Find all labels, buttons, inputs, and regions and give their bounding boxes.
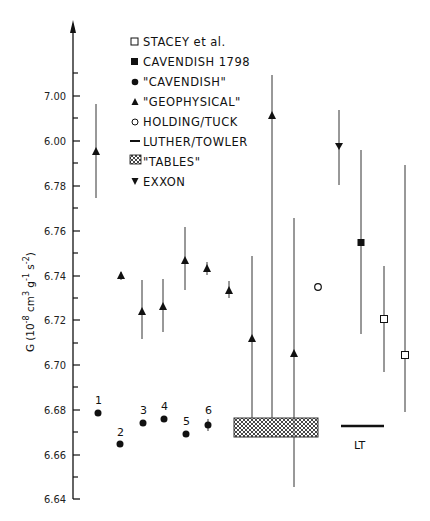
y-axis: 7.00 6.00 6.78 6.76 6.74 6.72 6.70 6.68 … [44, 20, 80, 506]
open-circle-icon [132, 119, 138, 125]
holding-tuck-point [315, 284, 322, 291]
svg-text:G(10-8 cm3 g-1 s-2): G(10-8 cm3 g-1 s-2) [22, 252, 36, 352]
filled-square-icon [131, 58, 138, 65]
legend: STACEY et al. CAVENDISH 1798 "CAVENDISH"… [130, 35, 250, 189]
lt-label: LT [354, 439, 366, 452]
point-label: 5 [183, 415, 190, 428]
legend-label: "CAVENDISH" [143, 75, 226, 89]
point-label: 6 [205, 404, 212, 417]
tables-range-box [234, 418, 318, 437]
y-tick-label: 6.66 [44, 449, 66, 462]
cavendish-points [95, 410, 212, 448]
open-square-icon [131, 38, 138, 45]
legend-label: "GEOPHYSICAL" [143, 95, 241, 109]
stacey-point [381, 316, 388, 323]
y-tick-label: 7.00 [44, 90, 66, 103]
legend-label: STACEY et al. [143, 35, 226, 49]
y-tick-label: 6.64 [44, 493, 66, 506]
y-tick-label: 6.00 [44, 135, 66, 148]
legend-label: HOLDING/TUCK [143, 115, 238, 129]
point-label: 2 [117, 426, 124, 439]
legend-label: "TABLES" [143, 155, 200, 169]
y-tick-label: 6.70 [44, 359, 66, 372]
point-label: 4 [161, 400, 168, 413]
legend-label: CAVENDISH 1798 [143, 55, 250, 69]
chart-canvas: 7.00 6.00 6.78 6.76 6.74 6.72 6.70 6.68 … [0, 0, 430, 521]
triangle-up-icon [132, 98, 139, 105]
y-tick-label: 6.78 [44, 180, 66, 193]
legend-label: LUTHER/TOWLER [143, 135, 248, 149]
exxon-point [335, 143, 343, 150]
y-tick-label: 6.68 [44, 404, 66, 417]
point-label: 3 [140, 404, 147, 417]
cavendish-1798-point [358, 239, 365, 246]
stacey-point [402, 352, 409, 359]
filled-circle-icon [132, 79, 139, 86]
hatched-box-icon [130, 155, 141, 164]
y-tick-label: 6.74 [44, 270, 66, 283]
y-tick-label: 6.76 [44, 225, 66, 238]
y-axis-title: G(10-8 cm3 g-1 s-2) [22, 252, 36, 352]
y-tick-label: 6.72 [44, 314, 66, 327]
legend-label: EXXON [143, 175, 185, 189]
point-label: 1 [95, 394, 102, 407]
axis-arrow-icon [70, 20, 76, 33]
triangle-down-icon [132, 178, 139, 185]
